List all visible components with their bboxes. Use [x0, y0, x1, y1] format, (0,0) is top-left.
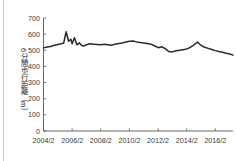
x-tick-label: 2016/2 — [204, 136, 226, 145]
x-tick-label: 2012/2 — [147, 136, 169, 145]
y-tick-label-group: 0100200300400500600700 — [28, 14, 40, 136]
y-tick-label: 500 — [28, 46, 40, 55]
x-tick-label: 2004/2 — [33, 136, 55, 145]
plot-canvas: 0100200300400500600700 2004/22006/22008/… — [0, 0, 236, 161]
y-tick-label: 100 — [28, 110, 40, 119]
y-tick-label: 300 — [28, 78, 40, 87]
x-tick-label: 2010/2 — [118, 136, 140, 145]
chart-figure: 6分間歩行距離（m） 0100200300400500600700 2004/2… — [0, 0, 236, 161]
y-tick-label: 400 — [28, 62, 40, 71]
y-tick-label: 200 — [28, 94, 40, 103]
x-tick-label-group: 2004/22006/22008/22010/22012/22014/22016… — [33, 136, 227, 145]
x-tick-label: 2006/2 — [61, 136, 83, 145]
y-tick-label: 0 — [36, 127, 40, 136]
page-edge-rule — [3, 0, 4, 161]
y-tick-label: 700 — [28, 14, 40, 23]
y-axis-label: 6分間歩行距離（m） — [12, 36, 27, 126]
axis-lines — [44, 18, 234, 131]
data-series-line — [44, 32, 234, 55]
x-tick-label: 2014/2 — [176, 136, 198, 145]
x-tick-label: 2008/2 — [90, 136, 112, 145]
y-tick-label: 600 — [28, 30, 40, 39]
